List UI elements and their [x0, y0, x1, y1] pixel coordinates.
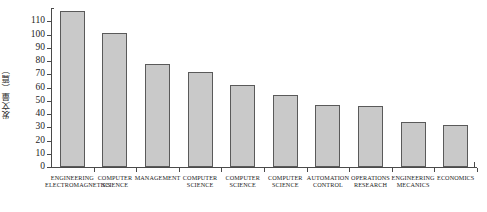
y-axis-top-cap: [51, 8, 54, 9]
y-tick-mark: [47, 141, 51, 142]
x-axis-right-cap: [474, 162, 475, 168]
y-axis-title: 发文量（篇）: [0, 36, 14, 148]
y-tick-label: 20: [36, 135, 46, 146]
y-tick-label: 0: [40, 161, 45, 172]
bar: [60, 11, 85, 167]
x-tick-mark: [477, 168, 478, 172]
y-tick-mark: [47, 101, 51, 102]
y-tick-mark: [47, 48, 51, 49]
x-tick-mark: [94, 168, 95, 172]
x-tick-mark: [434, 168, 435, 172]
y-tick-label: 90: [36, 42, 46, 53]
x-tick-mark: [307, 168, 308, 172]
y-tick-label: 50: [36, 95, 46, 106]
y-tick-40: 40: [51, 114, 55, 115]
y-tick-label: 100: [31, 29, 45, 40]
x-axis-label: ECONOMICS: [428, 174, 483, 181]
y-tick-label: 70: [36, 68, 46, 79]
x-tick-mark: [221, 168, 222, 172]
x-tick-mark: [136, 168, 137, 172]
bar: [273, 95, 298, 167]
y-tick-50: 50: [51, 101, 55, 102]
y-tick-110: 110: [51, 21, 55, 22]
bar: [443, 125, 468, 167]
bar: [102, 33, 127, 167]
y-tick-label: 60: [36, 82, 46, 93]
x-axis-label-line: ECONOMICS: [428, 174, 483, 181]
x-tick-mark: [392, 168, 393, 172]
y-tick-mark: [47, 167, 51, 168]
y-tick-label: 40: [36, 108, 46, 119]
y-tick-label: 110: [31, 15, 45, 26]
y-tick-10: 10: [51, 154, 55, 155]
y-tick-mark: [47, 88, 51, 89]
bar: [315, 105, 340, 167]
y-tick-label: 10: [36, 148, 46, 159]
bar: [230, 85, 255, 167]
y-tick-100: 100: [51, 35, 55, 36]
y-tick-mark: [47, 21, 51, 22]
x-axis-label-line: SCIENCE: [88, 181, 143, 188]
bar: [188, 72, 213, 167]
y-tick-mark: [47, 61, 51, 62]
y-tick-70: 70: [51, 74, 55, 75]
y-tick-60: 60: [51, 88, 55, 89]
y-tick-label: 80: [36, 55, 46, 66]
bar-chart: 发文量（篇） 0102030405060708090100110 ENGINEE…: [0, 0, 487, 212]
bar: [358, 106, 383, 167]
x-tick-mark: [264, 168, 265, 172]
plot-area: 0102030405060708090100110: [51, 8, 477, 168]
y-tick-mark: [47, 154, 51, 155]
y-tick-mark: [47, 74, 51, 75]
y-tick-mark: [47, 35, 51, 36]
bar: [145, 64, 170, 167]
y-tick-90: 90: [51, 48, 55, 49]
y-tick-mark: [47, 114, 51, 115]
y-tick-0: 0: [51, 167, 55, 168]
bar: [401, 122, 426, 167]
x-tick-mark: [349, 168, 350, 172]
y-tick-label: 30: [36, 121, 46, 132]
y-tick-20: 20: [51, 141, 55, 142]
x-tick-mark: [179, 168, 180, 172]
y-tick-mark: [47, 127, 51, 128]
y-tick-30: 30: [51, 127, 55, 128]
x-axis-label-line: MECANICS: [386, 181, 441, 188]
y-tick-80: 80: [51, 61, 55, 62]
